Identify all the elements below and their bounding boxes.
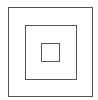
inner-square	[41, 43, 60, 62]
diagram-canvas	[0, 0, 98, 100]
